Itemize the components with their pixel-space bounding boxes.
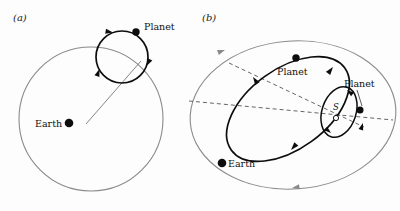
- panel-b-label: (b): [202, 12, 216, 23]
- earth-label-a: Earth: [35, 118, 62, 129]
- epicycle-arrow-right-icon: [144, 58, 152, 67]
- planet-label-a: Planet: [144, 21, 175, 32]
- panel-a-label: (a): [13, 12, 27, 23]
- earth-marker-b: [218, 159, 227, 168]
- planet-label-inner-b: Planet: [344, 78, 375, 89]
- earth-marker-a: [65, 119, 74, 128]
- deferent-radius-line: [86, 61, 141, 124]
- planet-orbit-outer-arrow-top-icon: [326, 65, 335, 75]
- planet-orbit-inner-arrow-right-icon: [359, 122, 366, 130]
- planet-marker-outer-b: [292, 54, 299, 61]
- sun-marker: [333, 115, 338, 120]
- figure-canvas: (a) Planet Earth (b): [0, 0, 400, 211]
- astronomy-figure-svg: (a) Planet Earth (b): [0, 0, 400, 211]
- panel-a: (a) Planet Earth: [13, 12, 175, 191]
- panel-b: (b) S: [185, 12, 400, 196]
- earth-label-b: Earth: [228, 158, 255, 169]
- sun-label: S: [333, 102, 339, 112]
- planet-marker-inner-b: [357, 107, 364, 114]
- earth-orbit-arrow-upper-icon: [217, 48, 226, 55]
- planet-marker-a: [132, 28, 139, 35]
- planet-label-outer-b: Planet: [277, 66, 308, 77]
- epicycle-orbit-circle: [96, 31, 148, 83]
